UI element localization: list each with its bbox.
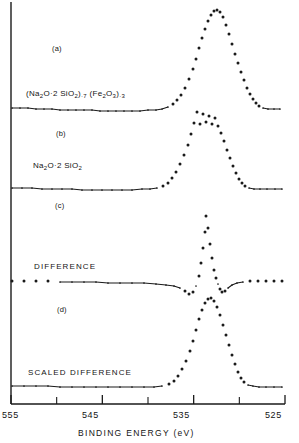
baseline-point (161, 385, 163, 387)
baseline-point (165, 284, 167, 286)
baseline-point (107, 110, 109, 112)
data-point (205, 121, 208, 124)
baseline-point (11, 385, 13, 387)
data-point (213, 300, 216, 303)
data-point (246, 87, 249, 90)
baseline-point (95, 386, 97, 388)
data-point (189, 350, 192, 353)
data-point (281, 280, 284, 283)
baseline-point (27, 107, 29, 109)
data-point (198, 318, 201, 321)
data-point (199, 123, 202, 126)
data-point (210, 297, 213, 300)
baseline-point (179, 287, 181, 289)
baseline-point (153, 386, 155, 388)
baseline-point (51, 108, 53, 110)
data-point (192, 340, 195, 343)
data-point (228, 344, 231, 347)
baseline-point (279, 108, 281, 110)
data-point (175, 171, 178, 174)
data-point (211, 257, 214, 260)
data-point (195, 58, 198, 61)
baseline-point (23, 385, 25, 387)
data-point (216, 9, 219, 12)
axis-lines (11, 2, 285, 404)
data-point (208, 115, 211, 118)
data-point (231, 43, 234, 46)
data-traces (11, 9, 284, 388)
series-label-a: (Na2O·2 SiO2)·7 (Fe2O3)·3 (26, 89, 125, 99)
baseline-point (155, 283, 157, 285)
data-point (167, 182, 170, 185)
baseline-point (195, 285, 197, 287)
baseline-point (101, 189, 103, 191)
data-point (205, 215, 208, 218)
baseline-point (107, 282, 109, 284)
data-point (204, 231, 207, 234)
data-point (216, 306, 219, 309)
x-tick-label-525: 525 (265, 410, 282, 420)
data-point (188, 78, 191, 81)
data-point (217, 125, 220, 128)
baseline-point (59, 109, 61, 111)
data-point (249, 93, 252, 96)
data-point (220, 132, 223, 135)
baseline-point (121, 189, 123, 191)
baseline-point (267, 108, 269, 110)
data-point (193, 122, 196, 125)
baseline-point (266, 188, 268, 190)
baseline-point (143, 282, 145, 284)
data-point (232, 165, 235, 168)
baseline-point (83, 109, 85, 111)
data-point (225, 24, 228, 27)
data-point (192, 291, 195, 294)
baseline-point (43, 108, 45, 110)
baseline-point (236, 282, 238, 284)
baseline-point (59, 281, 61, 283)
baseline-point (111, 189, 113, 191)
baseline-point (273, 108, 275, 110)
panel-tag-b: (b) (56, 129, 66, 138)
baseline-point (75, 109, 77, 111)
baseline-point (131, 189, 133, 191)
data-point (243, 79, 246, 82)
data-point (207, 20, 210, 23)
data-point (198, 47, 201, 50)
panel-tag-d: (d) (57, 305, 67, 314)
data-point (23, 280, 26, 283)
baseline-point (131, 110, 133, 112)
baseline-point (143, 386, 145, 388)
baseline-point (11, 187, 13, 189)
data-point (252, 98, 255, 101)
data-point (35, 280, 38, 283)
baseline-point (47, 385, 49, 387)
data-point (228, 33, 231, 36)
data-point (172, 103, 175, 106)
data-point (235, 172, 238, 175)
x-tick-label-555: 555 (2, 410, 19, 420)
baseline-segment (263, 108, 280, 109)
baseline-point (227, 287, 229, 289)
baseline-point (131, 282, 133, 284)
baseline-point (265, 386, 267, 388)
data-point (234, 53, 237, 56)
baseline-point (242, 281, 244, 283)
baseline-point (71, 281, 73, 283)
data-point (255, 102, 258, 105)
baseline-point (139, 110, 141, 112)
data-point (219, 314, 222, 317)
data-point (225, 334, 228, 337)
data-point (202, 113, 205, 116)
data-point (190, 133, 193, 136)
data-point (273, 280, 276, 283)
data-point (187, 144, 190, 147)
x-axis-title: BINDING ENERGY (eV) (78, 428, 195, 438)
data-point (204, 28, 207, 31)
baseline-point (131, 386, 133, 388)
trace-2 (11, 215, 284, 296)
data-point (202, 247, 205, 250)
data-point (184, 290, 187, 293)
baseline-point (119, 386, 121, 388)
data-point (185, 360, 188, 363)
baseline-point (173, 285, 175, 287)
